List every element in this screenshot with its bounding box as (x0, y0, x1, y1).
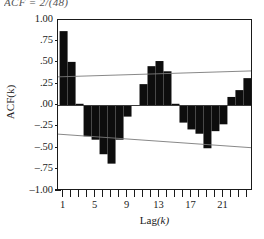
x-axis-tick-mark (62, 190, 63, 197)
y-axis-tick-label: –1.00 (7, 185, 53, 196)
x-axis-tick-mark (78, 190, 79, 197)
x-axis-tick-label: 5 (85, 199, 105, 211)
y-axis-tick-label: –.50 (7, 142, 53, 153)
upper-confidence-band (58, 71, 252, 77)
y-axis-tick-label: .50 (7, 56, 53, 67)
x-axis-tick-label: 1 (53, 199, 73, 211)
x-axis-tick-mark (110, 190, 111, 197)
x-axis-tick-mark (94, 190, 95, 197)
x-axis-tick-label: 13 (148, 199, 168, 211)
y-axis-tick-label: 1.00 (7, 14, 53, 25)
x-axis-title: Lag(k) (57, 214, 252, 226)
x-axis-tick-mark (182, 190, 183, 197)
x-axis-tick-mark (126, 190, 127, 197)
x-axis-tick-mark (246, 190, 247, 197)
x-axis-tick-mark (238, 190, 239, 197)
x-axis-tick-mark (214, 190, 215, 197)
x-axis-tick-mark (134, 190, 135, 197)
x-axis-tick-label: 21 (212, 199, 232, 211)
x-axis-tick-mark (222, 190, 223, 197)
x-axis-tick-mark (206, 190, 207, 197)
y-axis-title: ACF(k) (4, 67, 16, 137)
lower-confidence-band (58, 134, 252, 148)
x-axis-tick-mark (86, 190, 87, 197)
x-axis-tick-mark (190, 190, 191, 197)
x-axis-tick-labels: 159131721 (57, 199, 252, 213)
x-axis-tick-label: 17 (180, 199, 200, 211)
x-axis-tick-mark (118, 190, 119, 197)
x-axis-tick-mark (174, 190, 175, 197)
x-axis-title-main: Lag (140, 214, 157, 226)
x-axis-tick-mark (230, 190, 231, 197)
x-axis-tick-mark (102, 190, 103, 197)
plot-area (57, 19, 252, 190)
x-axis-tick-mark (166, 190, 167, 197)
x-axis-tick-label: 9 (117, 199, 137, 211)
x-axis-tick-mark (70, 190, 71, 197)
reference-lines (58, 20, 252, 190)
x-axis-tick-mark (198, 190, 199, 197)
x-axis-title-var: (k) (157, 214, 169, 226)
y-axis-tick-label: –.75 (7, 163, 53, 174)
acf-correlogram-figure: ACF = 2/(48) 1.00.75.50.25.00–.25–.50–.7… (0, 0, 264, 239)
x-axis-tick-mark (142, 190, 143, 197)
x-axis-tick-mark (150, 190, 151, 197)
y-axis-tick-label: .75 (7, 35, 53, 46)
x-axis-tick-mark (158, 190, 159, 197)
